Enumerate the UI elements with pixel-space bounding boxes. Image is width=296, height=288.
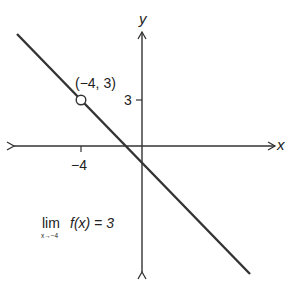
limit-subscript: x→−4 [41,232,59,239]
open-circle-hole [76,95,86,105]
x-tick-label: −4 [71,157,87,173]
limit-expression: f(x) = 3 [70,215,114,231]
y-axis-label: y [138,10,148,27]
limit-word: lim [42,215,60,231]
limit-graph: y x −4 3 (−4, 3) lim x→−4 f(x) = 3 [0,0,296,288]
y-tick-label: 3 [124,92,132,108]
point-label: (−4, 3) [75,75,116,91]
x-axis-label: x [276,136,285,153]
